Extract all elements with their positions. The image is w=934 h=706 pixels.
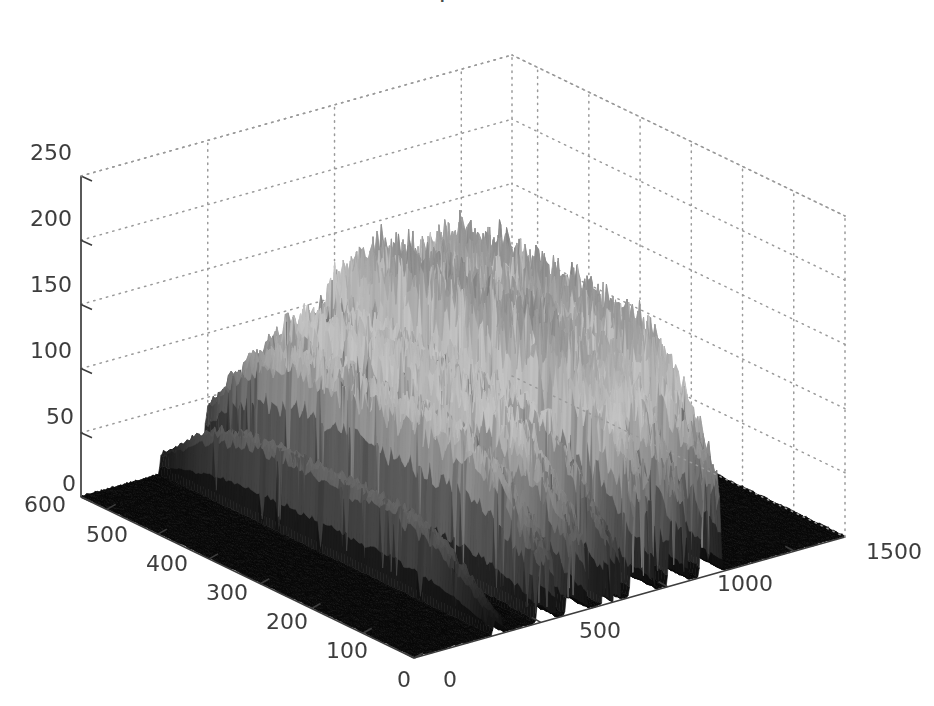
x-axis-tick-label: 1500 [866, 541, 922, 563]
z-axis-tick-label: 50 [46, 406, 74, 428]
y-axis-tick-label: 600 [24, 494, 66, 516]
x-axis-tick-label: 0 [443, 669, 457, 691]
z-axis-tick-label: 250 [30, 142, 72, 164]
y-axis-tick-label: 200 [266, 611, 308, 633]
z-axis-tick-label: 100 [30, 340, 72, 362]
z-axis-tick-label: 200 [30, 208, 72, 230]
z-axis-tick-label: 150 [30, 274, 72, 296]
y-axis-tick-label: 500 [86, 524, 128, 546]
figure-panel: sample_data 2502001501005006005004003002… [0, 0, 934, 706]
surface-plot-canvas [0, 0, 934, 706]
x-axis-tick-label: 500 [579, 620, 621, 642]
x-axis-tick-label: 1000 [717, 573, 773, 595]
y-axis-tick-label: 300 [206, 582, 248, 604]
y-axis-tick-label: 400 [146, 553, 188, 575]
y-axis-tick-label: 100 [326, 640, 368, 662]
y-axis-tick-label: 0 [397, 669, 411, 691]
